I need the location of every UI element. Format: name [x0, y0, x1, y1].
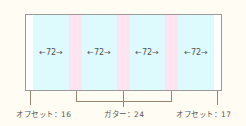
- gutter-3: [165, 15, 178, 90]
- layout-frame: ←72→ ←72→ ←72→ ←72→: [25, 14, 222, 91]
- column-width-label-4: ←72→: [184, 48, 208, 57]
- gutter-label: ガター：24: [104, 108, 145, 119]
- gutter-bracket-bar: [76, 101, 172, 102]
- right-offset-leader: [217, 91, 218, 105]
- right-offset-label: オフセット：17: [176, 108, 232, 119]
- gutter-1: [69, 15, 82, 90]
- gutter-2: [117, 15, 130, 90]
- column-width-label-2: ←72→: [87, 48, 111, 57]
- left-offset-label: オフセット：16: [16, 108, 72, 119]
- column-width-label-3: ←72→: [135, 48, 159, 57]
- gutter-bracket-center: [123, 91, 124, 107]
- left-offset-leader: [30, 91, 31, 105]
- column-width-label-1: ←72→: [39, 48, 63, 57]
